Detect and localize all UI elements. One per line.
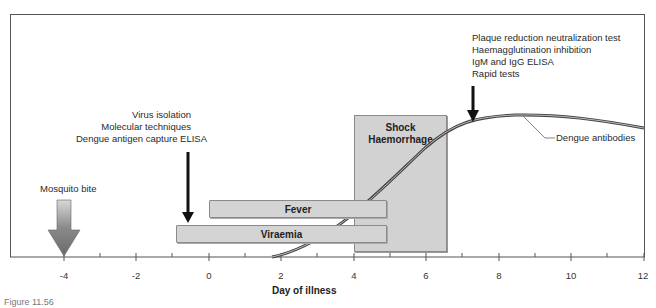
x-axis-label: Day of illness xyxy=(272,285,336,296)
x-tick-label: 0 xyxy=(206,270,211,281)
x-tick-label: 2 xyxy=(278,270,283,281)
early-tests-list: Virus isolation Molecular techniques Den… xyxy=(76,109,191,145)
late-test-item: Haemagglutination inhibition xyxy=(472,44,620,56)
early-test-item: Virus isolation xyxy=(76,109,191,121)
x-tick-label: 12 xyxy=(638,270,649,281)
early-tests-arrow-icon xyxy=(182,152,194,223)
x-tick-label: -2 xyxy=(132,270,140,281)
x-tick-label: 4 xyxy=(351,270,356,281)
dengue-antibodies-label: Dengue antibodies xyxy=(556,132,635,144)
early-test-item: Dengue antigen capture ELISA xyxy=(76,133,191,145)
mosquito-arrow-icon xyxy=(48,200,80,256)
mosquito-bite-label: Mosquito bite xyxy=(40,183,97,195)
x-tick-label: 10 xyxy=(566,270,577,281)
late-test-item: IgM and IgG ELISA xyxy=(472,56,620,68)
x-tick-label: 6 xyxy=(423,270,428,281)
late-test-item: Rapid tests xyxy=(472,68,620,80)
x-tick-label: 8 xyxy=(496,270,501,281)
early-test-item: Molecular techniques xyxy=(76,121,191,133)
late-tests-list: Plaque reduction neutralization test Hae… xyxy=(472,32,620,80)
late-tests-arrow-icon xyxy=(467,86,479,122)
x-tick-label: -4 xyxy=(60,270,68,281)
late-test-item: Plaque reduction neutralization test xyxy=(472,32,620,44)
figure-caption: Figure 11.56 xyxy=(4,296,54,308)
